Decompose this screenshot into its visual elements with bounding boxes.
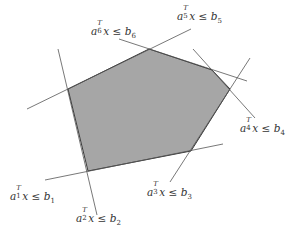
label-bsub: 5: [217, 17, 221, 25]
index-sub: 3: [153, 189, 157, 196]
label-inequality-2: aT2x ≤ b2: [76, 212, 121, 224]
label-rel: ≤: [98, 212, 107, 224]
label-rel: ≤: [262, 122, 271, 134]
transpose-sup: T: [183, 5, 188, 12]
label-bsub: 6: [131, 32, 135, 40]
label-x: x: [189, 10, 195, 22]
label-inequality-1: aT1x ≤ b1: [10, 190, 55, 202]
polyhedron-diagram: aT6x ≤ b6 aT5x ≤ b5 aT4x ≤ b4 aT3x ≤ b3 …: [0, 0, 297, 241]
transpose-sup: T: [153, 181, 158, 188]
label-rel: ≤: [113, 25, 122, 37]
index-sub: 5: [183, 13, 187, 20]
label-inequality-5: aT5x ≤ b5: [177, 10, 222, 22]
transpose-sup: T: [97, 20, 102, 27]
transpose-sup: T: [16, 185, 21, 192]
label-rel: ≤: [199, 10, 208, 22]
label-inequality-3: aT3x ≤ b3: [147, 186, 192, 198]
label-bsub: 1: [50, 197, 54, 205]
label-x: x: [252, 122, 258, 134]
label-bsub: 2: [116, 219, 120, 227]
label-inequality-6: aT6x ≤ b6: [91, 25, 136, 37]
label-rel: ≤: [32, 190, 41, 202]
index-sub: 1: [16, 193, 20, 200]
diagram-canvas: [0, 0, 297, 241]
label-x: x: [103, 25, 109, 37]
index-sub: 6: [97, 28, 101, 35]
index-sub: 2: [82, 215, 86, 222]
label-x: x: [88, 212, 94, 224]
label-bsub: 3: [187, 193, 191, 201]
label-inequality-4: aT4x ≤ b4: [240, 122, 285, 134]
label-x: x: [22, 190, 28, 202]
index-sub: 4: [246, 125, 250, 132]
label-bsub: 4: [280, 129, 284, 137]
label-rel: ≤: [169, 186, 178, 198]
transpose-sup: T: [82, 207, 87, 214]
label-x: x: [159, 186, 165, 198]
transpose-sup: T: [246, 117, 251, 124]
